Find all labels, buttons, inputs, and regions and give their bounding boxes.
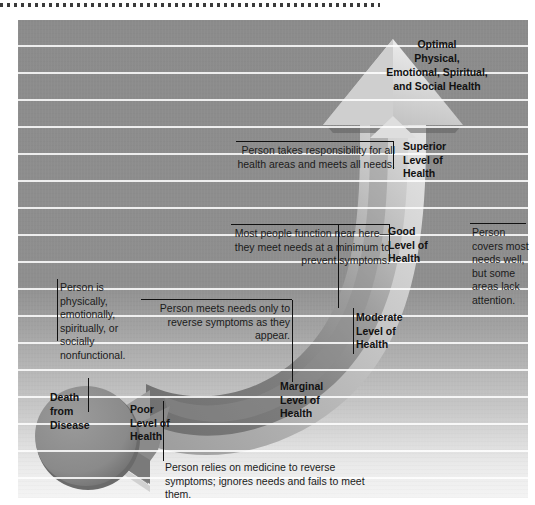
marginal-line-1: Marginal — [280, 380, 323, 394]
leader-vline-nonfunctional — [57, 279, 58, 341]
leader-rule-covers — [470, 223, 526, 224]
leader-vline-medicine — [163, 401, 164, 461]
note-most-people-function: Most people function near here—they meet… — [230, 227, 390, 268]
leader-vline-death — [88, 378, 89, 412]
leader-vline-moderate — [353, 308, 354, 354]
note-relies-on-medicine: Person relies on medicine to reverse sym… — [165, 461, 375, 502]
optimal-line-1: Optimal — [371, 37, 503, 51]
leader-rule-superior — [236, 141, 394, 142]
leader-rule-good — [231, 224, 389, 225]
moderate-line-2: Level of — [356, 325, 403, 339]
label-death-from-disease: Death from Disease — [50, 390, 90, 432]
optimal-line-4: and Social Health — [371, 79, 503, 93]
superior-line-2: Level of — [403, 154, 446, 168]
superior-line-1: Superior — [403, 140, 446, 154]
good-line-1: Good — [388, 225, 428, 239]
note-reverse-symptoms: Person meets needs only to reverse sympt… — [140, 302, 290, 343]
death-line-1: Death — [50, 390, 90, 404]
note-covers-most-needs: Person covers most needs well, but some … — [472, 226, 530, 307]
death-line-2: from — [50, 404, 90, 418]
moderate-line-1: Moderate — [356, 311, 403, 325]
leader-vline-marginal — [292, 300, 293, 382]
label-superior-level: Superior Level of Health — [403, 140, 446, 181]
good-line-3: Health — [388, 252, 428, 266]
good-line-2: Level of — [388, 239, 428, 253]
optimal-line-3: Emotional, Spiritual, — [371, 65, 503, 79]
superior-line-3: Health — [403, 167, 446, 181]
marginal-line-2: Level of — [280, 394, 323, 408]
moderate-line-3: Health — [356, 338, 403, 352]
marginal-line-3: Health — [280, 407, 323, 421]
label-moderate-level: Moderate Level of Health — [356, 311, 403, 352]
top-dotted-separator — [0, 3, 380, 7]
note-nonfunctional: Person is physically, emotionally, spiri… — [60, 281, 140, 362]
label-good-level: Good Level of Health — [388, 225, 428, 266]
death-line-3: Disease — [50, 418, 90, 432]
optimal-line-2: Physical, — [371, 51, 503, 65]
label-marginal-level: Marginal Level of Health — [280, 380, 323, 421]
label-optimal-health: Optimal Physical, Emotional, Spiritual, … — [371, 37, 503, 93]
note-superior-responsibility: Person takes responsibility for all heal… — [235, 144, 395, 171]
leader-rule-reverse — [141, 299, 292, 300]
